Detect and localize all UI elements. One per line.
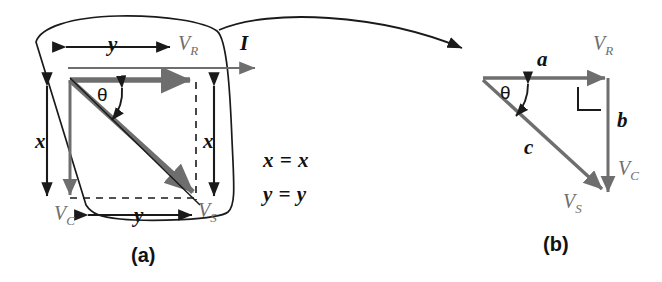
label-side-c: c (524, 137, 533, 158)
caption-panel-a: (a) (131, 245, 155, 265)
figure-canvas: y VR I θ x x VC y VS x = x y = y (a) a V… (0, 0, 662, 282)
label-vs-a: VS (198, 200, 217, 224)
label-vc-b-text: V (618, 157, 630, 179)
label-dim-x-right: x (203, 131, 214, 152)
label-vs-b-text: V (563, 190, 575, 212)
label-theta-b: θ (500, 83, 511, 102)
label-current-i: I (240, 33, 248, 54)
triangle-outline-a (70, 78, 200, 205)
identity-x: x = x (263, 150, 309, 171)
label-vr-b: VR (593, 33, 613, 57)
callout-connector-arrow (219, 17, 462, 48)
label-dim-y-bottom: y (134, 205, 143, 226)
label-vc-a-sub: C (66, 213, 75, 228)
label-vr-a-sub: R (190, 43, 198, 58)
label-side-b: b (617, 110, 628, 131)
label-vc-a-text: V (54, 202, 66, 224)
label-dim-y-top: y (108, 34, 117, 55)
label-vc-b-sub: C (630, 168, 639, 183)
label-vs-a-text: V (198, 199, 210, 221)
label-vr-a: VR (178, 33, 198, 57)
label-dim-x-left: x (35, 131, 46, 152)
label-theta-a: θ (97, 85, 108, 104)
right-angle-marker (578, 87, 601, 110)
label-vs-b-sub: S (575, 201, 582, 216)
label-vr-b-sub: R (605, 43, 613, 58)
angle-arc-theta-a (112, 88, 122, 120)
label-vs-a-sub: S (210, 210, 217, 225)
label-vc-a: VC (54, 203, 75, 227)
caption-panel-b: (b) (543, 234, 569, 254)
label-side-a: a (537, 49, 548, 70)
label-vr-b-text: V (593, 32, 605, 54)
label-vr-a-text: V (178, 32, 190, 54)
label-vc-b: VC (618, 158, 639, 182)
identity-y: y = y (263, 184, 307, 205)
label-vs-b: VS (563, 191, 582, 215)
